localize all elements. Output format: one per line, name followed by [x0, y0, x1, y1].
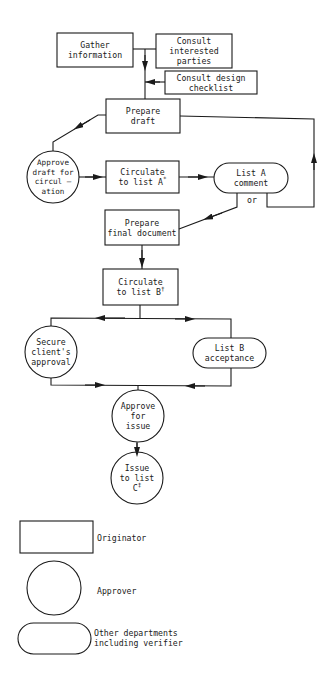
- footnote-mark-b: †: [161, 285, 165, 292]
- footnote-mark-c: ‡: [138, 481, 142, 488]
- footnote-mark-a: *: [163, 175, 167, 182]
- approve-draft-node: Approve draft for circul — ation: [27, 151, 79, 203]
- legend-originator-label: Originator: [97, 533, 146, 543]
- circulate-list-a-node: Circulate to list A*: [106, 161, 179, 193]
- secure-client-approval-node: Secure client's approval: [25, 326, 77, 378]
- legend-rectangle-icon: [20, 521, 93, 553]
- issue-to-list-c-node: Issue to list C‡: [111, 452, 163, 504]
- consult-design-checklist-node: Consult design checklist: [165, 71, 257, 94]
- circulate-a-label: Circulate to list A: [119, 167, 165, 187]
- gather-information-node: Gather information: [57, 33, 133, 67]
- legend-pill-icon: [18, 623, 91, 654]
- or-label: or: [242, 194, 262, 206]
- list-b-acceptance-node: List B acceptance: [193, 338, 266, 368]
- prepare-draft-node: Prepare draft: [106, 99, 180, 133]
- legend-circle-icon: [27, 561, 81, 615]
- prepare-final-document-node: Prepare final document: [105, 210, 179, 245]
- approve-for-issue-node: Approve for issue: [112, 390, 164, 442]
- list-a-comment-node: List A comment: [214, 163, 288, 193]
- legend-approver-label: Approver: [97, 586, 136, 596]
- consult-interested-parties-node: Consult interested parties: [156, 34, 232, 68]
- circulate-list-b-node: Circulate to list B†: [103, 269, 178, 305]
- issue-list-c-label: Issue to list C: [120, 463, 155, 493]
- legend-other-departments-label: Other departments including verifier: [94, 628, 183, 648]
- circulate-b-label: Circulate to list B: [117, 277, 163, 297]
